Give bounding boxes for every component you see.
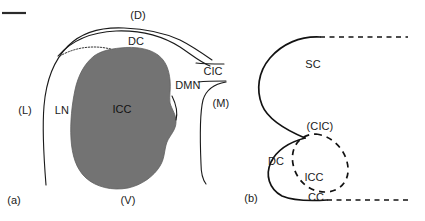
- panel-a-label-dorsal: (D): [130, 9, 146, 21]
- panel-b-group: SC (CIC) DC ICC CC (b): [244, 37, 410, 204]
- cic-lower-contour: [198, 81, 226, 82]
- panel-b-label-dc: DC: [268, 155, 284, 167]
- panel-a-group: (D) (L) (M) (V) DC CIC DMN LN ICC (a): [7, 9, 229, 206]
- diagram-canvas: (D) (L) (M) (V) DC CIC DMN LN ICC (a) S: [0, 0, 425, 221]
- panel-a-label-dmn: DMN: [175, 79, 200, 91]
- panel-a-identifier: (a): [7, 194, 20, 206]
- icc-projection-dashed-oval: [292, 134, 348, 192]
- panel-a-label-cic: CIC: [203, 65, 222, 77]
- panel-a-label-dc: DC: [128, 35, 144, 47]
- cic-upper-contour: [196, 63, 224, 64]
- icc-region-shape: [71, 47, 176, 189]
- figure-root: (D) (L) (M) (V) DC CIC DMN LN ICC (a) S: [0, 0, 425, 221]
- panel-b-label-cic: (CIC): [307, 120, 334, 132]
- panel-b-label-icc: ICC: [304, 171, 323, 183]
- panel-a-label-ln: LN: [55, 104, 69, 116]
- panel-a-label-ventral: (V): [121, 194, 136, 206]
- panel-a-label-medial: (M): [213, 97, 230, 109]
- panel-a-label-lateral: (L): [18, 104, 32, 116]
- panel-a-label-icc: ICC: [112, 103, 131, 115]
- panel-b-label-sc: SC: [305, 58, 320, 70]
- panel-b-identifier: (b): [244, 192, 257, 204]
- panel-b-label-cc: CC: [308, 191, 324, 203]
